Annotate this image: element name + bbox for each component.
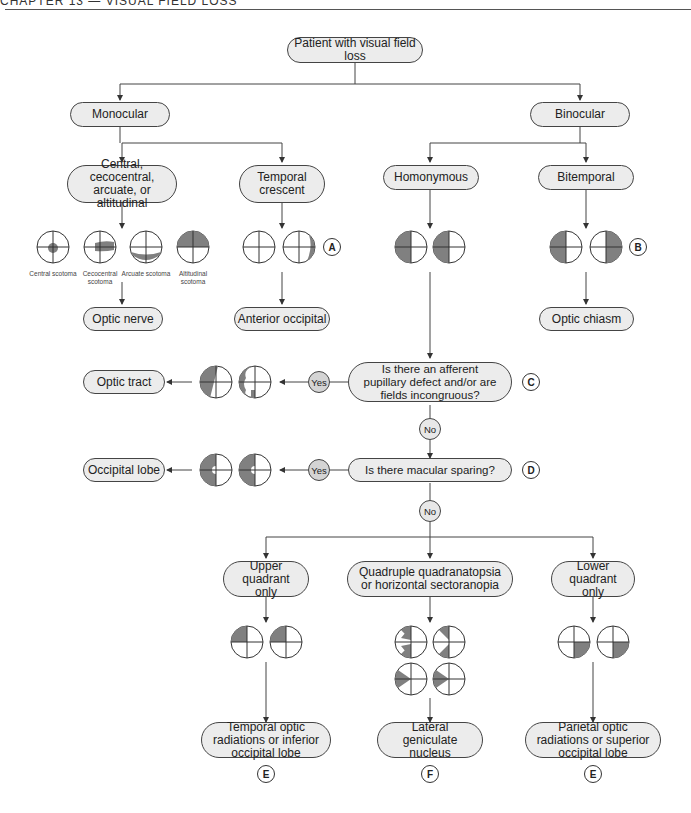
cecocentral-scotoma-field <box>84 231 116 263</box>
altitudinal-scotoma-field <box>177 231 209 263</box>
lgn-node: Lateral geniculate nucleus <box>377 722 483 758</box>
temporal-radiations-node: Temporal optic radiations or inferior oc… <box>201 722 331 758</box>
quadruple-field-top-right <box>433 626 465 658</box>
occipital-field-right <box>239 454 271 486</box>
root-node: Patient with visual field loss <box>287 37 423 63</box>
monocular-node: Monocular <box>70 102 170 127</box>
label-cecocentral-scotoma: Cecocentral scotoma <box>75 270 125 286</box>
tag-e-left: E <box>257 765 275 783</box>
optic-tract-field-right <box>236 366 271 398</box>
anterior-occipital-node: Anterior occipital <box>234 307 330 331</box>
tag-d: D <box>522 461 540 479</box>
optic-nerve-node: Optic nerve <box>83 307 163 331</box>
sectoranopia-field-bottom-right <box>433 663 465 695</box>
label-altitudinal-scotoma: Altitudinal scotoma <box>168 270 218 286</box>
upper-quadrant-field-left <box>231 626 263 658</box>
temporal-crescent-node: Temporal crescent <box>239 165 325 203</box>
bitemporal-field-left <box>550 231 582 263</box>
temporal-crescent-field-left <box>243 231 275 263</box>
no-apd: No <box>419 418 441 440</box>
binocular-node: Binocular <box>530 102 630 127</box>
optic-chiasm-node: Optic chiasm <box>539 307 634 331</box>
lower-quadrant-field-left <box>558 626 590 658</box>
bitemporal-field-right <box>590 231 622 263</box>
upper-quadrant-node: Upper quadrant only <box>223 561 309 597</box>
sectoranopia-field-bottom-left <box>395 663 427 695</box>
parietal-radiations-node: Parietal optic radiations or superior oc… <box>525 722 661 758</box>
central-scotoma-field <box>37 231 69 263</box>
label-central-scotoma: Central scotoma <box>28 270 78 278</box>
optic-tract-node: Optic tract <box>83 370 165 394</box>
homonymous-node: Homonymous <box>383 165 479 190</box>
yes-macular: Yes <box>308 459 330 481</box>
tag-f: F <box>421 765 439 783</box>
tag-a: A <box>323 238 341 256</box>
tag-b: B <box>629 238 647 256</box>
lower-quadrant-node: Lower quadrant only <box>551 561 635 597</box>
lower-quadrant-field-right <box>597 626 629 658</box>
temporal-crescent-field-right <box>283 231 315 263</box>
homonymous-field-right <box>433 231 465 263</box>
tag-c: C <box>522 373 540 391</box>
occipital-field-left <box>200 454 232 486</box>
homonymous-field-left <box>395 231 427 263</box>
optic-tract-field-left <box>198 366 232 398</box>
no-macular: No <box>419 500 441 522</box>
tag-e-right: E <box>584 765 602 783</box>
arcuate-scotoma-field <box>130 231 162 263</box>
yes-apd: Yes <box>308 371 330 393</box>
quadruple-field-top-left <box>395 626 427 658</box>
upper-quadrant-field-right <box>270 626 302 658</box>
central-scotoma-node: Central, cecocentral, arcuate, or altitu… <box>67 165 177 203</box>
bitemporal-node: Bitemporal <box>538 165 634 190</box>
label-arcuate-scotoma: Arcuate scotoma <box>121 270 171 278</box>
occipital-lobe-node: Occipital lobe <box>83 458 165 482</box>
afferent-defect-question: Is there an afferent pupillary defect an… <box>348 362 512 402</box>
macular-sparing-question: Is there macular sparing? <box>348 458 512 482</box>
quadruple-node: Quadruple quadranatopsia or horizontal s… <box>347 561 513 597</box>
